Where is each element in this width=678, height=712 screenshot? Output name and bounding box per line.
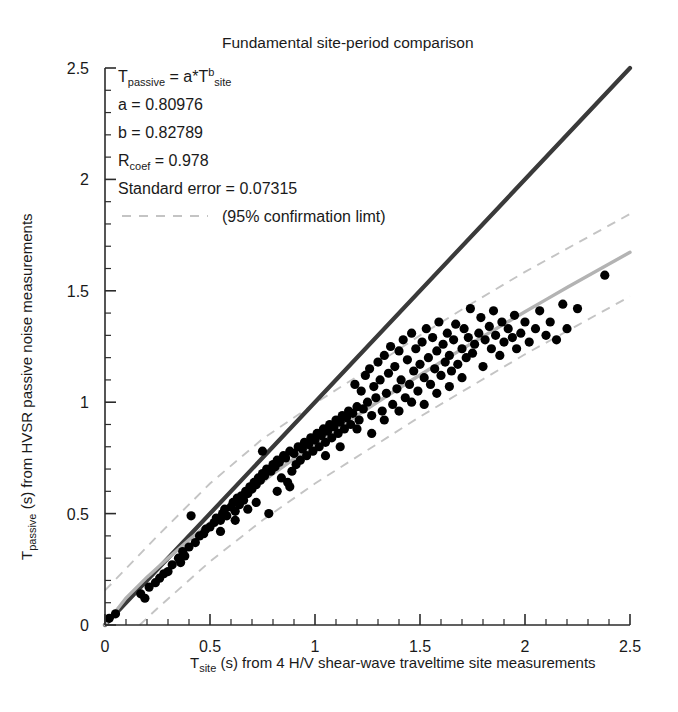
data-point	[369, 382, 378, 391]
data-point	[151, 578, 160, 587]
data-point	[546, 317, 555, 326]
data-point	[258, 447, 267, 456]
data-point	[378, 407, 387, 416]
data-point	[457, 344, 466, 353]
y-tick-label: 2.5	[67, 60, 89, 77]
coefficient-a-label: a = 0.80976	[118, 96, 203, 113]
data-point	[439, 340, 448, 349]
data-point	[392, 384, 401, 393]
data-point	[373, 357, 382, 366]
data-point	[541, 331, 550, 340]
data-point	[468, 349, 477, 358]
data-point	[252, 498, 261, 507]
data-point	[384, 369, 393, 378]
data-point	[470, 340, 479, 349]
data-point	[388, 400, 397, 409]
data-point	[413, 386, 422, 395]
data-point	[460, 324, 469, 333]
data-point	[420, 373, 429, 382]
data-point	[243, 505, 252, 514]
data-point	[457, 373, 466, 382]
data-point	[497, 317, 506, 326]
y-tick-label: 1	[80, 394, 89, 411]
data-point	[510, 311, 519, 320]
plot-background	[0, 0, 678, 712]
data-point	[420, 400, 429, 409]
data-point	[464, 333, 473, 342]
chart-figure: Fundamental site-period comparison 00.51…	[0, 0, 678, 712]
data-point	[552, 335, 561, 344]
coefficient-b-label: b = 0.82789	[118, 124, 203, 141]
y-tick-label: 0.5	[67, 506, 89, 523]
data-point	[520, 317, 529, 326]
data-point	[424, 353, 433, 362]
data-point	[445, 382, 454, 391]
data-point	[187, 511, 196, 520]
data-point	[436, 371, 445, 380]
data-point	[432, 389, 441, 398]
data-point	[499, 337, 508, 346]
data-point	[428, 333, 437, 342]
data-point	[430, 364, 439, 373]
data-point	[403, 355, 412, 364]
scatter-plot-svg: Fundamental site-period comparison 00.51…	[0, 0, 678, 712]
data-point	[426, 380, 435, 389]
data-point	[512, 344, 521, 353]
data-point	[573, 304, 582, 313]
data-point	[367, 429, 376, 438]
standard-error-label: Standard error = 0.07315	[118, 180, 297, 197]
data-point	[264, 509, 273, 518]
data-point	[285, 482, 294, 491]
data-point	[415, 360, 424, 369]
data-point	[382, 389, 391, 398]
data-point	[409, 366, 418, 375]
data-point	[489, 306, 498, 315]
data-point	[525, 337, 534, 346]
x-tick-label: 0.5	[199, 638, 221, 655]
data-point	[407, 398, 416, 407]
data-point	[422, 324, 431, 333]
data-point	[508, 333, 517, 342]
data-point	[491, 331, 500, 340]
data-point	[558, 300, 567, 309]
data-point	[418, 337, 427, 346]
data-point	[451, 320, 460, 329]
data-point	[516, 329, 525, 338]
data-point	[140, 594, 149, 603]
x-tick-label: 0	[101, 638, 110, 655]
data-point	[163, 567, 172, 576]
data-point	[355, 415, 364, 424]
data-point	[562, 324, 571, 333]
data-point	[447, 366, 456, 375]
data-point	[371, 393, 380, 402]
data-point	[380, 415, 389, 424]
data-point	[504, 324, 513, 333]
data-point	[216, 527, 225, 536]
data-point	[411, 344, 420, 353]
data-point	[390, 362, 399, 371]
data-point	[474, 329, 483, 338]
data-point	[380, 351, 389, 360]
data-point	[357, 386, 366, 395]
data-point	[476, 313, 485, 322]
data-point	[600, 271, 609, 280]
y-tick-label: 0	[80, 617, 89, 634]
y-tick-label: 1.5	[67, 283, 89, 300]
data-point	[397, 375, 406, 384]
data-point	[481, 335, 490, 344]
data-point	[350, 380, 359, 389]
data-point	[445, 351, 454, 360]
data-point	[434, 317, 443, 326]
data-point	[487, 344, 496, 353]
data-point	[478, 362, 487, 371]
data-point	[394, 407, 403, 416]
x-tick-label: 1.5	[409, 638, 431, 655]
x-tick-label: 1	[311, 638, 320, 655]
x-tick-label: 2	[521, 638, 530, 655]
data-point	[386, 342, 395, 351]
data-point	[453, 360, 462, 369]
data-point	[176, 558, 185, 567]
data-point	[394, 346, 403, 355]
data-point	[222, 511, 231, 520]
data-point	[405, 380, 414, 389]
